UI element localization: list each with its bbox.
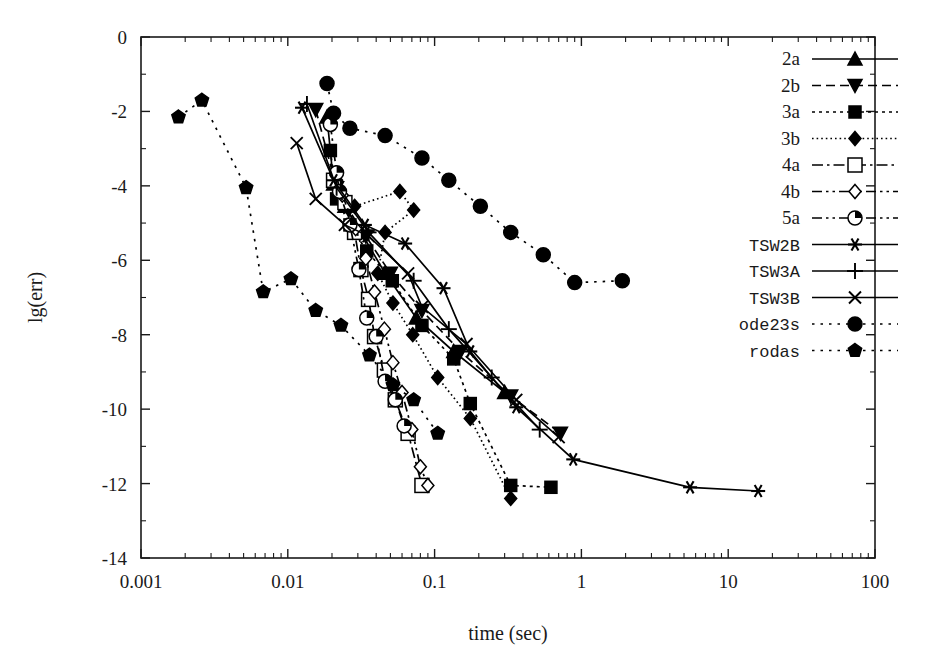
x-tick-label: 10 bbox=[719, 571, 738, 592]
y-tick-label: -4 bbox=[111, 176, 127, 197]
legend-label: 4b bbox=[781, 181, 800, 202]
legend-label: 4a bbox=[782, 154, 801, 175]
data-point-circle bbox=[343, 121, 357, 135]
data-point-circle-pie bbox=[848, 211, 862, 225]
chart-svg: 0.0010.010.11101000-2-4-6-8-10-12-14time… bbox=[0, 0, 926, 667]
legend-label: 3b bbox=[781, 128, 800, 149]
y-tick-label: -10 bbox=[102, 399, 127, 420]
data-point-circle-pie bbox=[369, 330, 383, 344]
data-point-square bbox=[416, 319, 428, 331]
y-tick-label: -12 bbox=[102, 474, 127, 495]
y-tick-label: -8 bbox=[111, 325, 127, 346]
legend-label: rodas bbox=[749, 343, 800, 362]
y-tick-label: 0 bbox=[118, 27, 128, 48]
data-point-circle-pie bbox=[388, 393, 402, 407]
y-axis-title: lg(err) bbox=[24, 272, 47, 323]
data-point-circle bbox=[415, 151, 429, 165]
y-tick-label: -14 bbox=[102, 548, 128, 569]
data-point-square bbox=[545, 481, 557, 493]
data-point-circle bbox=[615, 274, 629, 288]
data-point-square bbox=[849, 106, 861, 118]
legend-label: 3a bbox=[782, 101, 801, 122]
data-point-circle bbox=[536, 248, 550, 262]
data-point-square bbox=[448, 353, 460, 365]
y-tick-label: -6 bbox=[111, 250, 127, 271]
data-point-square bbox=[386, 275, 398, 287]
legend-label: 2b bbox=[781, 75, 800, 96]
x-tick-label: 0.1 bbox=[423, 571, 447, 592]
legend-label: TSW2B bbox=[749, 237, 800, 256]
data-point-circle bbox=[848, 317, 862, 331]
legend-label: TSW3A bbox=[749, 263, 801, 282]
y-tick-label: -2 bbox=[111, 101, 127, 122]
data-point-square bbox=[464, 398, 476, 410]
data-point-circle bbox=[320, 77, 334, 91]
x-tick-label: 0.01 bbox=[271, 571, 304, 592]
data-point-circle-pie bbox=[397, 419, 411, 433]
x-tick-label: 100 bbox=[861, 571, 890, 592]
data-point-circle bbox=[568, 276, 582, 290]
data-point-circle bbox=[473, 199, 487, 213]
data-point-circle bbox=[504, 225, 518, 239]
data-point-circle-pie bbox=[352, 263, 366, 277]
data-point-circle-pie bbox=[360, 311, 374, 325]
x-tick-label: 1 bbox=[577, 571, 587, 592]
legend-label: TSW3B bbox=[749, 290, 800, 309]
legend-label: 5a bbox=[782, 207, 801, 228]
x-tick-label: 0.001 bbox=[120, 571, 163, 592]
legend-label: ode23s bbox=[739, 316, 800, 335]
chart-figure: 0.0010.010.11101000-2-4-6-8-10-12-14time… bbox=[0, 0, 926, 667]
data-point-circle bbox=[378, 129, 392, 143]
legend-label: 2a bbox=[782, 48, 801, 69]
data-point-circle bbox=[442, 173, 456, 187]
data-point-circle bbox=[327, 106, 341, 120]
data-point-square-open bbox=[848, 158, 862, 172]
x-axis-title: time (sec) bbox=[468, 622, 547, 645]
